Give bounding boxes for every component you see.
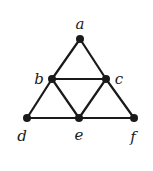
label-b: b <box>34 70 44 88</box>
label-f: f <box>129 128 138 146</box>
label-c: c <box>115 70 124 88</box>
node-d <box>23 114 31 122</box>
label-e: e <box>75 126 84 144</box>
node-e <box>75 114 83 122</box>
label-d: d <box>17 127 27 145</box>
triangle-graph-diagram: a b c d e f <box>0 0 153 171</box>
node-a <box>76 35 84 43</box>
edge-c-e <box>79 79 106 118</box>
node-c <box>102 75 110 83</box>
node-f <box>130 114 138 122</box>
node-labels: a b c d e f <box>17 15 138 146</box>
node-b <box>48 75 56 83</box>
edge-b-e <box>52 79 79 118</box>
edge-a-c <box>80 39 106 79</box>
edge-a-b <box>52 39 80 79</box>
label-a: a <box>76 15 85 33</box>
